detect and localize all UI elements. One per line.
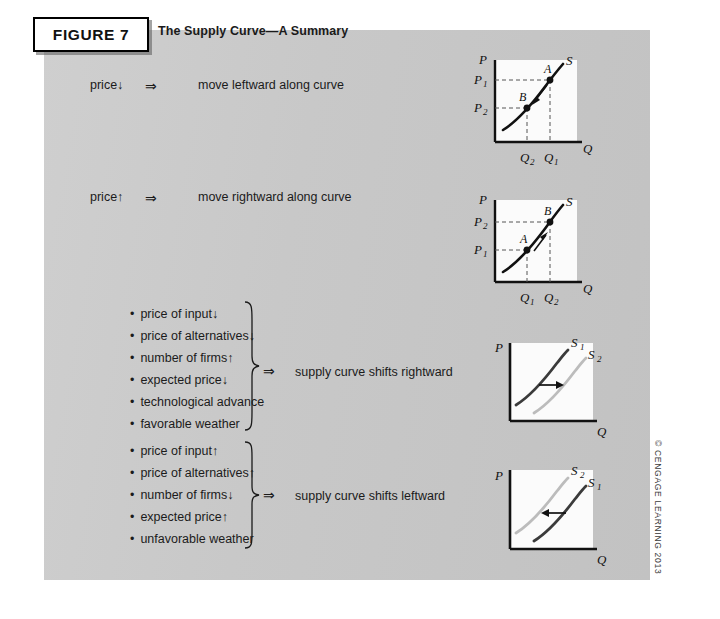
y-axis-label: P bbox=[494, 340, 503, 355]
svg-text:S: S bbox=[588, 475, 595, 490]
svg-text:P: P bbox=[473, 100, 482, 115]
svg-text:Q: Q bbox=[544, 150, 554, 165]
point-a-label: A bbox=[519, 232, 528, 246]
x-tick-q1: Q1 bbox=[544, 150, 559, 167]
list-item-label: price of alternatives↓ bbox=[140, 329, 255, 343]
figure-title: The Supply Curve—A Summary bbox=[158, 24, 348, 38]
block-1-result: supply curve shifts rightward bbox=[295, 365, 453, 379]
svg-text:S: S bbox=[588, 347, 595, 362]
svg-text:Q: Q bbox=[520, 290, 530, 305]
copyright-notice: © CENGAGE LEARNING 2013 bbox=[653, 440, 663, 574]
row-1-implies-icon: ⇒ bbox=[145, 78, 157, 94]
bullet-icon: • bbox=[130, 444, 134, 458]
list-item: •price of input↑ bbox=[130, 440, 255, 462]
svg-text:P: P bbox=[473, 72, 482, 87]
svg-text:Q: Q bbox=[520, 150, 530, 165]
chart-movement-rightward: P Q S A B P2 P1 Q1 Q2 bbox=[470, 192, 595, 317]
svg-text:1: 1 bbox=[597, 482, 602, 492]
bullet-icon: • bbox=[130, 488, 134, 502]
svg-text:1: 1 bbox=[580, 342, 585, 352]
brace-leftward bbox=[243, 440, 261, 550]
series-label-s: S bbox=[566, 53, 573, 68]
svg-text:P: P bbox=[473, 214, 482, 229]
svg-text:1: 1 bbox=[483, 79, 488, 89]
svg-text:Q: Q bbox=[544, 290, 554, 305]
block-1-implies-icon: ⇒ bbox=[263, 363, 275, 379]
point-a-marker bbox=[524, 247, 531, 254]
list-item-label: expected price↓ bbox=[140, 373, 228, 387]
svg-text:1: 1 bbox=[483, 249, 488, 259]
y-tick-p2: P2 bbox=[473, 100, 488, 117]
svg-text:2: 2 bbox=[580, 470, 585, 480]
x-axis-label: Q bbox=[583, 281, 593, 296]
list-item: •unfavorable weather bbox=[130, 528, 255, 550]
point-b-label: B bbox=[519, 90, 527, 104]
plot-area bbox=[510, 470, 593, 549]
svg-text:1: 1 bbox=[530, 297, 535, 307]
row-1-condition: price↓ bbox=[90, 78, 123, 92]
y-tick-p1: P1 bbox=[473, 72, 488, 89]
chart-shift-leftward: P Q S 2 S 1 bbox=[487, 462, 612, 582]
row-2-implies-icon: ⇒ bbox=[145, 190, 157, 206]
bullet-icon: • bbox=[130, 307, 134, 321]
series-label-s2: S 2 bbox=[588, 347, 602, 364]
figure-number-label: FIGURE 7 bbox=[53, 26, 129, 44]
block-2-implies-icon: ⇒ bbox=[263, 487, 275, 503]
bullet-icon: • bbox=[130, 466, 134, 480]
chart-movement-leftward: P Q S A B P1 P2 Q2 Q1 bbox=[470, 52, 595, 177]
y-axis-label: P bbox=[494, 468, 503, 483]
row-1-result: move leftward along curve bbox=[198, 78, 344, 92]
point-b-marker bbox=[524, 105, 531, 112]
y-axis-label: P bbox=[478, 52, 487, 67]
svg-text:P: P bbox=[473, 242, 482, 257]
brace-rightward bbox=[243, 300, 261, 432]
list-item: •number of firms↓ bbox=[130, 484, 255, 506]
list-item-label: expected price↑ bbox=[140, 510, 228, 524]
list-item-label: price of input↑ bbox=[140, 444, 218, 458]
bullet-icon: • bbox=[130, 510, 134, 524]
row-2-condition: price↑ bbox=[90, 190, 123, 204]
series-label-s: S bbox=[566, 194, 573, 209]
point-a-label: A bbox=[543, 62, 552, 76]
bullet-icon: • bbox=[130, 351, 134, 365]
shift-leftward-factor-list: •price of input↑ •price of alternatives↑… bbox=[130, 440, 255, 550]
x-axis-label: Q bbox=[597, 552, 607, 567]
svg-text:S: S bbox=[571, 335, 578, 350]
list-item-label: number of firms↓ bbox=[140, 488, 233, 502]
bullet-icon: • bbox=[130, 417, 134, 431]
bullet-icon: • bbox=[130, 373, 134, 387]
svg-text:S: S bbox=[571, 463, 578, 478]
bullet-icon: • bbox=[130, 395, 134, 409]
svg-text:2: 2 bbox=[483, 107, 488, 117]
figure-number-box: FIGURE 7 bbox=[33, 17, 149, 52]
x-tick-q2: Q2 bbox=[520, 150, 535, 167]
figure-container: FIGURE 7 The Supply Curve—A Summary © CE… bbox=[0, 0, 720, 619]
list-item: •price of alternatives↑ bbox=[130, 462, 255, 484]
point-b-marker bbox=[547, 219, 554, 226]
y-axis-label: P bbox=[478, 192, 487, 207]
x-axis-label: Q bbox=[583, 141, 593, 156]
svg-text:1: 1 bbox=[554, 157, 559, 167]
y-tick-p1: P1 bbox=[473, 242, 488, 259]
point-a-marker bbox=[547, 77, 554, 84]
list-item-label: number of firms↑ bbox=[140, 351, 233, 365]
list-item-label: favorable weather bbox=[140, 417, 239, 431]
series-label-s1: S 1 bbox=[588, 475, 602, 492]
list-item: •expected price↑ bbox=[130, 506, 255, 528]
bullet-icon: • bbox=[130, 532, 134, 546]
chart-shift-rightward: P Q S 1 S 2 bbox=[487, 335, 612, 453]
svg-text:2: 2 bbox=[483, 221, 488, 231]
list-item-label: unfavorable weather bbox=[140, 532, 253, 546]
row-2-result: move rightward along curve bbox=[198, 190, 352, 204]
bullet-icon: • bbox=[130, 329, 134, 343]
plot-area bbox=[510, 343, 593, 421]
svg-text:2: 2 bbox=[597, 354, 602, 364]
list-item-label: price of alternatives↑ bbox=[140, 466, 255, 480]
y-tick-p2: P2 bbox=[473, 214, 488, 231]
svg-text:2: 2 bbox=[554, 297, 559, 307]
point-b-label: B bbox=[544, 204, 552, 218]
x-tick-q2: Q2 bbox=[544, 290, 559, 307]
x-axis-label: Q bbox=[597, 424, 607, 439]
list-item-label: price of input↓ bbox=[140, 307, 218, 321]
block-2-result: supply curve shifts leftward bbox=[295, 489, 445, 503]
